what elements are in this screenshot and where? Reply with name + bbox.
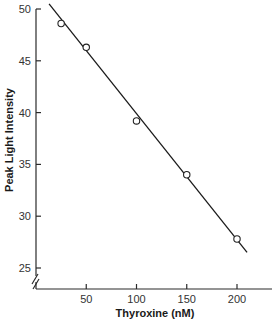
data-point-circle-icon — [58, 20, 64, 26]
fit-line — [49, 4, 247, 253]
y-tick-label: 30 — [19, 210, 31, 222]
x-tick-label: 50 — [80, 293, 92, 305]
data-point-circle-icon — [83, 44, 89, 50]
y-tick-label: 35 — [19, 158, 31, 170]
data-point-circle-icon — [133, 118, 139, 124]
data-point-circle-icon — [184, 172, 190, 178]
chart-canvas: 253035404550 50100150200 Thyroxine (nM) … — [0, 0, 273, 322]
y-tick-label: 50 — [19, 3, 31, 15]
y-axis-title: Peak Light Intensity — [3, 87, 15, 192]
x-tick-label: 100 — [127, 293, 145, 305]
y-tick-label: 25 — [19, 262, 31, 274]
x-tick-label: 150 — [178, 293, 196, 305]
x-axis-title: Thyroxine (nM) — [116, 307, 195, 319]
regression-line — [49, 4, 247, 253]
x-tick-label: 200 — [228, 293, 246, 305]
data-point-circle-icon — [234, 236, 240, 242]
y-axis: 253035404550 — [19, 3, 41, 289]
y-tick-label: 45 — [19, 55, 31, 67]
y-tick-label: 40 — [19, 107, 31, 119]
x-axis: 50100150200 — [36, 284, 272, 305]
